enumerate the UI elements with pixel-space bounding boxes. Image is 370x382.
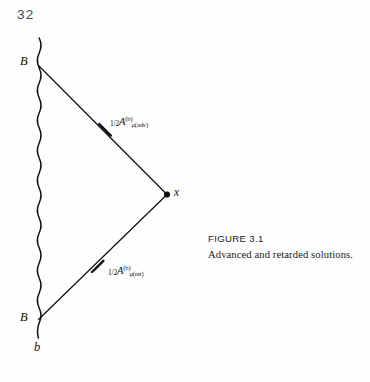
field-point-label: x bbox=[174, 186, 179, 198]
worldline-bottom-label: B bbox=[20, 310, 28, 325]
advanced-coefficient: 1/2 bbox=[110, 120, 119, 128]
advanced-ray bbox=[39, 66, 167, 194]
retarded-coefficient: 1/2 bbox=[108, 269, 117, 277]
figure-caption-label: FIGURE 3.1 bbox=[208, 232, 358, 246]
figure-caption: FIGURE 3.1 Advanced and retarded solutio… bbox=[208, 232, 358, 262]
advanced-potential-expression: 1/2A(b)μ(adv) bbox=[110, 116, 148, 129]
worldline-top-label: B bbox=[20, 54, 28, 69]
figure-diagram bbox=[0, 0, 200, 382]
retarded-ray bbox=[39, 196, 167, 320]
wavy-worldline bbox=[37, 38, 41, 338]
charge-b-label: b bbox=[34, 340, 40, 355]
figure-caption-text: Advanced and retarded solutions. bbox=[208, 247, 358, 262]
field-point-dot bbox=[164, 191, 170, 197]
retarded-potential-expression: 1/2A(b)μ(ret) bbox=[108, 265, 144, 278]
advanced-subscript: μ(adv) bbox=[131, 121, 148, 128]
figure-3-1: B B b x 1/2A(b)μ(adv) 1/2A(b)μ(ret) bbox=[0, 0, 200, 382]
retarded-subscript: μ(ret) bbox=[129, 270, 143, 277]
textbook-page: 32 B B b x bbox=[0, 0, 370, 382]
